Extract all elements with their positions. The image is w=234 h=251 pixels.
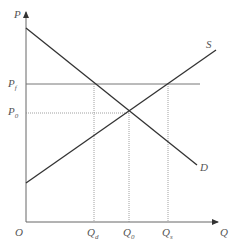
demand-label: D bbox=[199, 161, 208, 173]
supply-demand-diagram: P Q O S D Pf P0 Qd Q0 Qs bbox=[0, 0, 234, 251]
origin-label: O bbox=[15, 226, 23, 238]
pf-label: Pf bbox=[7, 77, 18, 92]
q0-label: Q0 bbox=[123, 226, 135, 241]
qd-label: Qd bbox=[87, 226, 99, 241]
supply-curve bbox=[26, 50, 216, 183]
supply-label: S bbox=[206, 38, 212, 50]
qs-label: Qs bbox=[162, 226, 173, 241]
p0-label: P0 bbox=[7, 105, 19, 120]
x-axis-label: Q bbox=[220, 226, 228, 238]
y-axis-label: P bbox=[13, 8, 21, 20]
demand-curve bbox=[26, 28, 197, 165]
